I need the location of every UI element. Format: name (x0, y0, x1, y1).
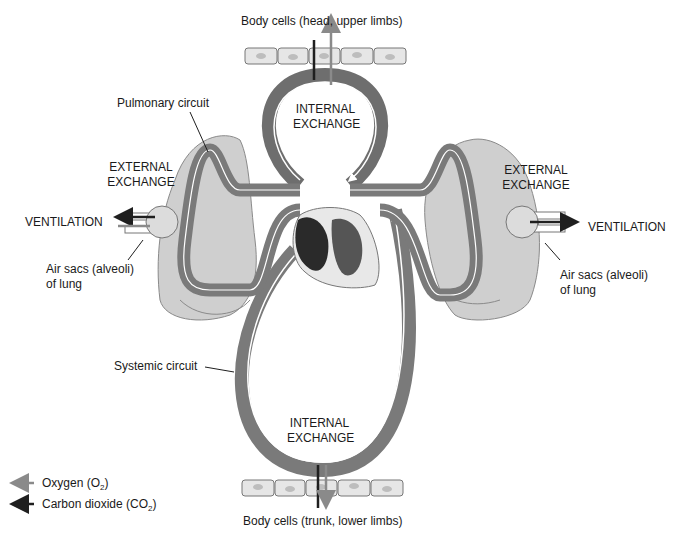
label-external-exchange-left: EXTERNAL EXCHANGE (106, 160, 176, 190)
label-bottom-body-cells: Body cells (trunk, lower limbs) (243, 514, 402, 529)
label-external-left-line1: EXTERNAL (106, 160, 176, 175)
label-alveoli-left-line1: Air sacs (alveoli) (46, 262, 134, 277)
systemic-leader (205, 367, 234, 372)
alveoli-left-leader (128, 240, 143, 260)
label-internal-top-line2: EXCHANGE (293, 117, 358, 132)
respiration-circulation-diagram: Body cells (head, upper limbs) Body cell… (0, 0, 686, 543)
label-internal-bottom-line2: EXCHANGE (287, 431, 352, 446)
alveoli-right-leader (545, 243, 560, 260)
label-alveoli-right-line2: of lung (560, 283, 648, 298)
label-external-right-line2: EXCHANGE (500, 178, 572, 193)
label-external-right-line1: EXTERNAL (500, 163, 572, 178)
label-external-left-line2: EXCHANGE (106, 175, 176, 190)
label-ventilation-left: VENTILATION (25, 215, 103, 230)
label-systemic-circuit: Systemic circuit (114, 359, 197, 374)
legend-co2: Carbon dioxide (CO2) (42, 497, 157, 513)
label-alveoli-right: Air sacs (alveoli) of lung (560, 268, 648, 298)
label-alveoli-left: Air sacs (alveoli) of lung (46, 262, 134, 292)
label-internal-top-line1: INTERNAL (293, 102, 358, 117)
label-internal-exchange-bottom: INTERNAL EXCHANGE (287, 416, 352, 446)
label-top-body-cells: Body cells (head, upper limbs) (241, 14, 402, 29)
label-internal-bottom-line1: INTERNAL (287, 416, 352, 431)
bottom-body-cells (242, 480, 403, 496)
top-body-cells (245, 48, 406, 64)
heart (293, 208, 379, 288)
label-alveoli-left-line2: of lung (46, 277, 134, 292)
label-ventilation-right: VENTILATION (588, 220, 666, 235)
left-alveolus (118, 206, 178, 238)
label-internal-exchange-top: INTERNAL EXCHANGE (293, 102, 358, 132)
right-alveolus (506, 206, 575, 238)
legend-oxygen: Oxygen (O2) (42, 476, 108, 492)
label-alveoli-right-line1: Air sacs (alveoli) (560, 268, 648, 283)
legend-oxygen-label: Oxygen (O2) (42, 476, 108, 492)
label-pulmonary-circuit: Pulmonary circuit (117, 96, 209, 111)
label-external-exchange-right: EXTERNAL EXCHANGE (500, 163, 572, 193)
legend-co2-label: Carbon dioxide (CO2) (42, 497, 157, 513)
